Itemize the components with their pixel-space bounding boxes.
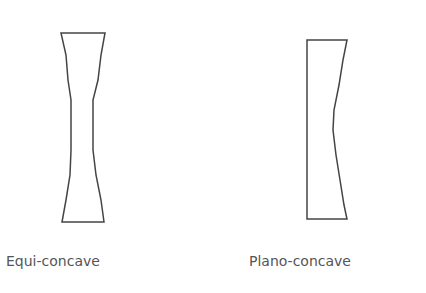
equi-concave-label: Equi-concave (6, 253, 100, 269)
lens-diagram (0, 0, 426, 293)
plano-concave-label: Plano-concave (249, 253, 351, 269)
plano-concave-lens-shape (307, 40, 347, 219)
equi-concave-lens-shape (61, 33, 105, 222)
